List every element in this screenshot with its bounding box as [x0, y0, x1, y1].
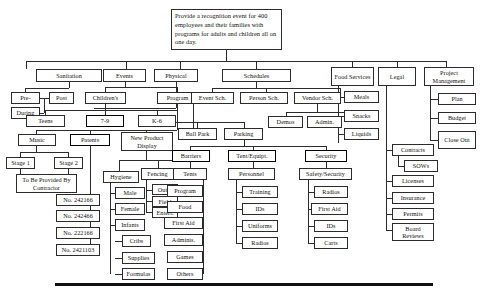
- connector-physical-row: [176, 122, 244, 123]
- node-liquids: Liquids: [344, 128, 379, 140]
- connector-top-spine: [26, 61, 446, 62]
- node-to-be-provided-by-contractor: To Be Provided By Contractor: [16, 174, 77, 193]
- node-teens: Teens: [26, 115, 65, 127]
- connector-contracts-sows: [398, 156, 399, 166]
- node-music: Music: [18, 134, 56, 146]
- node-vendor-sch: Vendor Sch.: [294, 92, 341, 104]
- connector-drop-events: [126, 61, 127, 69]
- connector-schedules-span: [212, 88, 340, 89]
- node-infants: Infants: [115, 219, 145, 231]
- node-parking: Parking: [224, 128, 263, 140]
- connector-drop-sanitation: [26, 61, 27, 69]
- node-food-services: Food Services: [331, 67, 374, 86]
- node-tent-adminis: Adminis.: [164, 234, 203, 246]
- node-root-objective: Provide a recognition event for 400 empl…: [171, 9, 282, 50]
- connector-pm-spine: [430, 86, 431, 140]
- node-cribs: Cribs: [122, 235, 151, 247]
- node-permits: Permits: [392, 208, 434, 220]
- node-stage-1: Stage 1: [6, 157, 35, 169]
- node-budget: Budget: [438, 112, 476, 124]
- node-tent-food: Food: [167, 201, 203, 213]
- connector-program-stem: [177, 104, 178, 130]
- node-person-sch: Person Sch.: [240, 92, 288, 104]
- node-female: Female: [115, 203, 145, 215]
- connector-root-trunk: [226, 50, 227, 61]
- connector-parking-span: [190, 146, 326, 147]
- node-project-management: Project Management: [424, 67, 474, 86]
- connector-tents-spine: [203, 180, 204, 274]
- connector-formulas-tick: [115, 274, 122, 275]
- node-physical: Physical: [154, 69, 198, 82]
- node-tent-games: Games: [167, 251, 203, 263]
- node-board-reviews: Board Reviews: [392, 223, 434, 241]
- node-sec-first-aid: First Aid: [311, 203, 348, 215]
- connector-npd-fencing: [158, 160, 159, 168]
- connector-budget-tick: [430, 118, 438, 119]
- node-sec-ids: IDs: [314, 220, 348, 232]
- connector-music-span: [20, 152, 68, 153]
- connector-plan-tick: [430, 99, 438, 100]
- node-sanitation-pre: Pre-: [11, 92, 40, 104]
- node-meals: Meals: [344, 91, 379, 103]
- node-ball-park: Ball Park: [178, 128, 217, 140]
- connector-personnel-spine: [236, 180, 237, 243]
- connector-safety-spine: [308, 180, 309, 243]
- node-childrens: Children's: [85, 92, 126, 104]
- node-sec-radios: Radios: [314, 186, 348, 198]
- node-licenses: Licenses: [392, 175, 434, 187]
- connector-ballpark-drop: [193, 104, 194, 128]
- node-patent-2421103: No. 2421103: [56, 244, 100, 256]
- wbs-diagram: Provide a recognition event for 400 empl…: [0, 0, 488, 298]
- connector-physical-span: [94, 108, 176, 109]
- connector-npd-stem: [146, 151, 147, 160]
- connector-sanitation-during-tick: [40, 113, 44, 114]
- node-patents: Patents: [70, 134, 110, 146]
- node-admin: Admin.: [307, 116, 342, 128]
- node-schedules: Schedules: [222, 69, 291, 82]
- node-supplies: Supplies: [122, 252, 155, 264]
- node-insurance: Insurance: [392, 192, 434, 204]
- connector-hygiene-spine: [110, 183, 111, 274]
- node-barriers: Barriers: [172, 150, 210, 162]
- node-sows: SOWs: [404, 160, 438, 172]
- node-plan: Plan: [438, 93, 476, 105]
- node-tent-program: Program: [167, 185, 203, 197]
- node-patent-222166: No. 222166: [56, 227, 100, 239]
- connector-sanitation-stem: [69, 82, 70, 88]
- node-training: Training: [242, 186, 278, 198]
- node-ids: IDs: [242, 203, 278, 215]
- node-tent-first-aid: First Aid: [164, 217, 203, 229]
- node-patent-242166: No. 242166: [56, 194, 100, 206]
- node-tent-others: Others: [167, 268, 203, 280]
- node-patent-242466: No. 242466: [56, 210, 100, 222]
- node-personnel: Personnel: [228, 168, 275, 180]
- connector-vendor-stem: [317, 104, 318, 112]
- node-safety-security: Safety/Security: [299, 168, 352, 180]
- node-demos: Demos: [268, 116, 303, 128]
- node-security: Security: [305, 150, 347, 162]
- connector-drop-schedules: [256, 61, 257, 69]
- connector-events-span: [105, 87, 177, 88]
- connector-program-span: [36, 130, 177, 131]
- node-events: Events: [103, 69, 146, 82]
- connector-fencing-spine: [146, 180, 147, 212]
- node-hygiene: Hygiene: [103, 171, 139, 183]
- connector-npd-hygiene: [119, 160, 120, 171]
- node-sec-carts: Carts: [314, 237, 348, 249]
- node-age-7-9: 7-9: [86, 115, 124, 127]
- node-new-product-display: New Product Display: [121, 132, 173, 151]
- node-snacks: Snacks: [344, 110, 379, 122]
- node-formulas: Formulas: [122, 268, 155, 280]
- node-sanitation-post: Post: [49, 92, 74, 104]
- node-uniforms: Uniforms: [242, 220, 278, 232]
- node-tents: Tents: [173, 168, 207, 180]
- node-radios: Radios: [242, 237, 278, 249]
- node-stage-2: Stage 2: [54, 157, 83, 169]
- node-fencing: Fencing: [141, 168, 174, 180]
- connector-drop-physical: [180, 61, 181, 69]
- node-male: Male: [115, 187, 145, 199]
- connector-npd-span: [119, 160, 173, 161]
- connector-closeout-tick: [430, 140, 438, 141]
- connector-cribs-tick: [115, 241, 122, 242]
- connector-supplies-tick: [115, 258, 122, 259]
